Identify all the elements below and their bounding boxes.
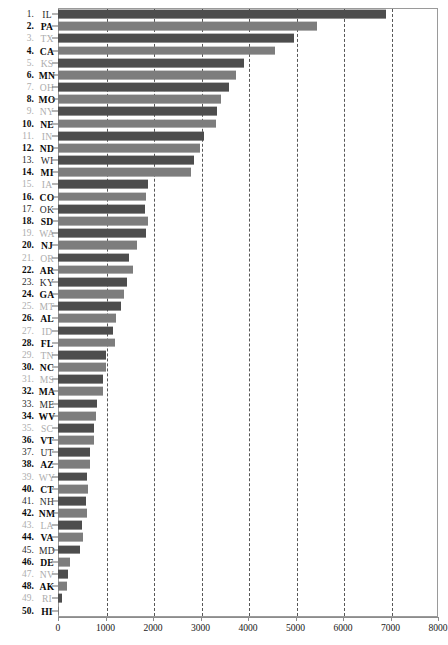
bar-row: 14.MI xyxy=(0,166,446,178)
bar-row: 10.NE xyxy=(0,118,446,130)
bar xyxy=(58,265,133,274)
row-rank: 11. xyxy=(0,131,34,141)
bar xyxy=(58,192,146,201)
bar xyxy=(58,582,67,591)
axis-tick xyxy=(201,617,202,621)
bar-row: 23.KY xyxy=(0,276,446,288)
bar-row: 16.CO xyxy=(0,191,446,203)
row-rank: 50. xyxy=(0,606,34,616)
row-rank: 1. xyxy=(0,9,34,19)
bar-row: 15.IA xyxy=(0,178,446,190)
row-rank: 48. xyxy=(0,581,34,591)
axis-tick-label: 5000 xyxy=(286,622,305,633)
row-rank: 38. xyxy=(0,459,34,469)
axis-tick-label: 0 xyxy=(56,622,61,633)
bar-row: 37.UT xyxy=(0,446,446,458)
bar xyxy=(58,326,113,335)
bar-row: 28.FL xyxy=(0,337,446,349)
bar xyxy=(58,241,137,250)
bar xyxy=(58,46,275,55)
bar xyxy=(58,156,194,165)
row-rank: 5. xyxy=(0,58,34,68)
row-rank: 10. xyxy=(0,119,34,129)
row-rank: 33. xyxy=(0,399,34,409)
axis-tick-label: 2000 xyxy=(143,622,162,633)
bar xyxy=(58,448,90,457)
bar xyxy=(58,71,236,80)
bar xyxy=(58,290,124,299)
axis-tick-label: 6000 xyxy=(333,622,352,633)
bar-row: 26.AL xyxy=(0,312,446,324)
bar xyxy=(58,119,216,128)
row-rank: 49. xyxy=(0,593,34,603)
row-rank: 9. xyxy=(0,106,34,116)
bar-row: 32.MA xyxy=(0,385,446,397)
row-rank: 12. xyxy=(0,143,34,153)
bar xyxy=(58,204,145,213)
bar-row: 38.AZ xyxy=(0,458,446,470)
row-rank: 6. xyxy=(0,70,34,80)
bar-row: 33.ME xyxy=(0,398,446,410)
bar-row: 35.SC xyxy=(0,422,446,434)
bar-row: 13.WI xyxy=(0,154,446,166)
row-rank: 39. xyxy=(0,472,34,482)
row-rank: 8. xyxy=(0,94,34,104)
bar-row: 21.OR xyxy=(0,251,446,263)
bar xyxy=(58,144,200,153)
axis-tick-label: 1000 xyxy=(96,622,115,633)
row-rank: 16. xyxy=(0,192,34,202)
bar-row: 36.VT xyxy=(0,434,446,446)
bar-row: 5.KS xyxy=(0,57,446,69)
row-rank: 23. xyxy=(0,277,34,287)
row-rank: 17. xyxy=(0,204,34,214)
bar xyxy=(58,58,244,67)
bar xyxy=(58,363,106,372)
bar-row: 45.MD xyxy=(0,544,446,556)
bar-row: 29.TN xyxy=(0,349,446,361)
bar-row: 49.RI xyxy=(0,592,446,604)
axis-tick-label: 3000 xyxy=(191,622,210,633)
bar-row: 44.VA xyxy=(0,531,446,543)
bar xyxy=(58,399,97,408)
row-rank: 18. xyxy=(0,216,34,226)
row-rank: 29. xyxy=(0,350,34,360)
row-rank: 22. xyxy=(0,265,34,275)
row-rank: 13. xyxy=(0,155,34,165)
row-rank: 45. xyxy=(0,545,34,555)
bar-row: 40.CT xyxy=(0,483,446,495)
bar-row: 7.OH xyxy=(0,81,446,93)
axis-tick xyxy=(58,617,59,621)
bar-row: 43.LA xyxy=(0,519,446,531)
bar xyxy=(58,533,83,542)
row-rank: 3. xyxy=(0,33,34,43)
axis-tick-label: 4000 xyxy=(238,622,257,633)
row-rank: 26. xyxy=(0,313,34,323)
bar xyxy=(58,34,294,43)
row-rank: 28. xyxy=(0,338,34,348)
row-rank: 34. xyxy=(0,411,34,421)
bar xyxy=(58,557,70,566)
bar-row: 3.TX xyxy=(0,32,446,44)
row-rank: 41. xyxy=(0,496,34,506)
bar xyxy=(58,472,87,481)
row-rank: 24. xyxy=(0,289,34,299)
axis-tick xyxy=(438,617,439,621)
bar-row: 17.OK xyxy=(0,203,446,215)
bar xyxy=(58,351,106,360)
bar-row: 42.NM xyxy=(0,507,446,519)
bar-rows: 1.IL2.PA3.TX4.CA5.KS6.MN7.OH8.MO9.NY10.N… xyxy=(0,8,446,617)
row-rank: 44. xyxy=(0,532,34,542)
row-rank: 14. xyxy=(0,167,34,177)
bar-row: 24.GA xyxy=(0,288,446,300)
bar xyxy=(58,168,191,177)
bar xyxy=(58,253,129,262)
row-rank: 27. xyxy=(0,326,34,336)
bar xyxy=(58,338,115,347)
row-rank: 21. xyxy=(0,253,34,263)
axis-tick-label: 7000 xyxy=(381,622,400,633)
bar xyxy=(58,314,116,323)
bar-row: 27.ID xyxy=(0,324,446,336)
bar-row: 19.WA xyxy=(0,227,446,239)
axis-tick xyxy=(106,617,107,621)
row-rank: 37. xyxy=(0,447,34,457)
